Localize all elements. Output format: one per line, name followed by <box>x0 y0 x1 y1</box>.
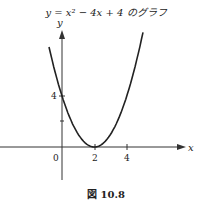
parabola-curve <box>49 32 143 147</box>
origin-label: 0 <box>53 153 59 163</box>
y-tick-label-4: 4 <box>51 91 57 101</box>
x-axis-label: x <box>188 142 194 153</box>
x-tick-label-2: 2 <box>92 153 98 163</box>
y-axis-label: y <box>56 17 63 28</box>
y-axis-arrow-icon <box>59 30 65 39</box>
graph: x y 0 2 4 4 <box>0 0 212 211</box>
x-axis-arrow-icon <box>177 144 186 150</box>
x-tick-label-4: 4 <box>124 153 130 163</box>
figure-caption: 図 10.8 <box>0 186 212 201</box>
